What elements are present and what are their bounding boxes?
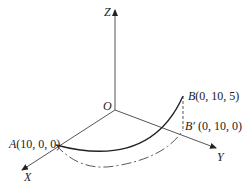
point-bprime-coords: (0, 10, 0) (195, 119, 242, 133)
diagram-canvas: Z X Y O A(10, 0, 0) B(0, 10, 5) B′ (0, 1… (0, 0, 242, 183)
point-b-coords: (0, 10, 5) (195, 89, 239, 103)
point-bprime-name: B′ (185, 119, 195, 133)
space-curve-A-B (56, 96, 183, 151)
point-a-coords: (10, 0, 0) (16, 137, 60, 151)
z-axis-label: Z (104, 5, 111, 19)
origin-label: O (103, 99, 112, 113)
y-axis-label: Y (217, 150, 225, 164)
point-bprime-label: B′ (0, 10, 0) (185, 119, 242, 133)
x-axis-label: X (23, 170, 32, 183)
point-b-label: B(0, 10, 5) (188, 89, 239, 103)
point-a-label: A(10, 0, 0) (8, 137, 60, 151)
